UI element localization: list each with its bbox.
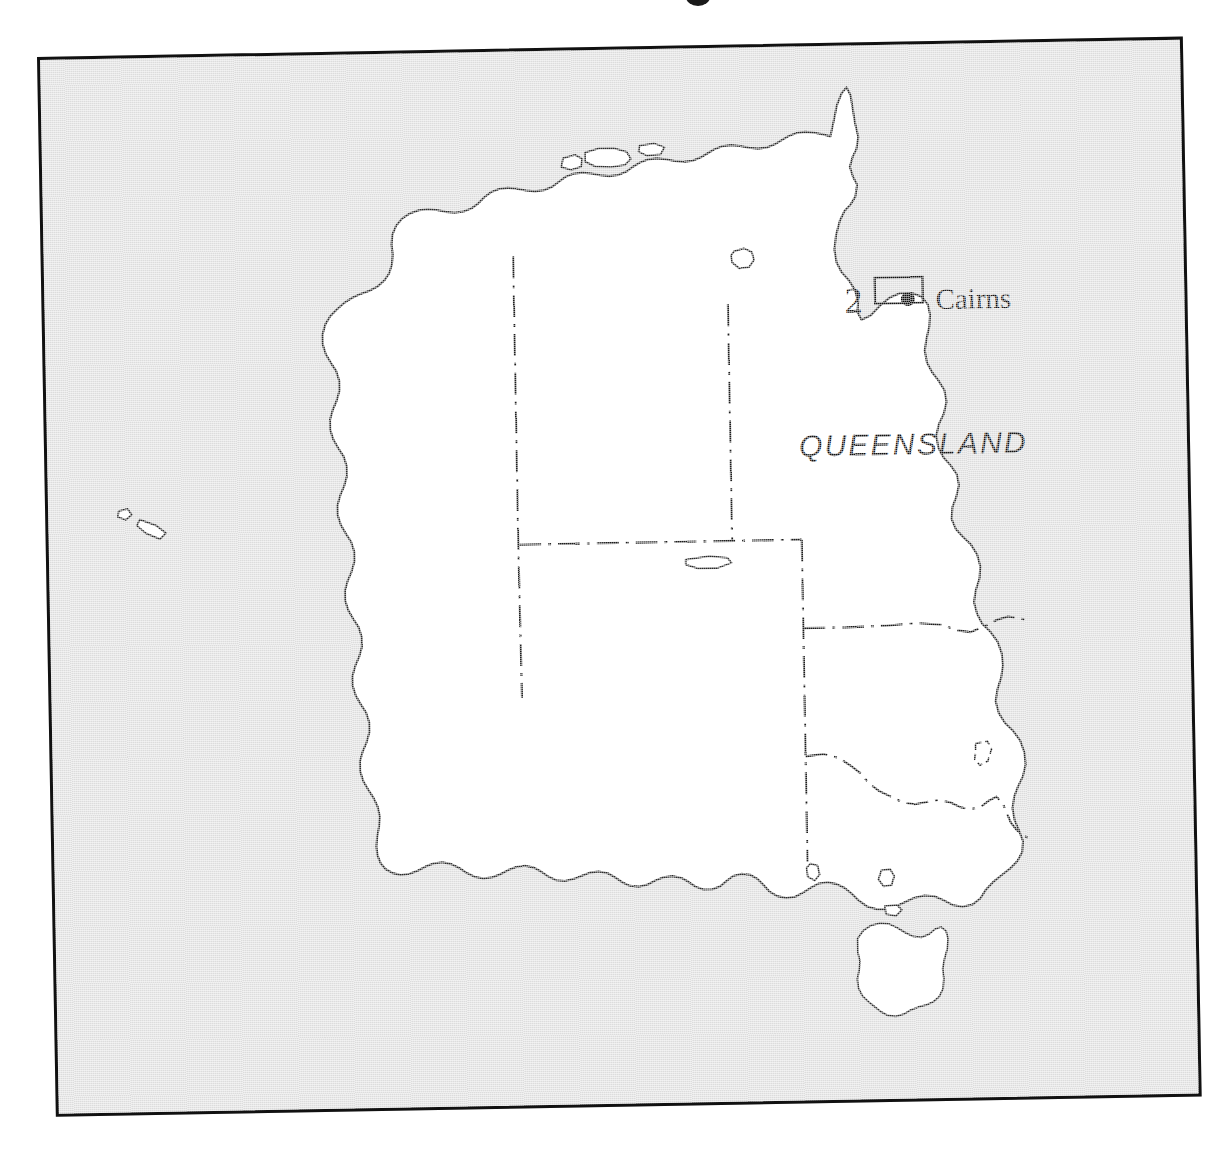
tiwi-island-east [638, 143, 664, 155]
bernier-island [118, 509, 132, 520]
king-island [807, 864, 820, 881]
queensland-label: QUEENSLAND [799, 425, 1028, 463]
cropped-title-mark [686, 0, 710, 6]
map-frame-wrapper: 2 Cairns QUEENSLAND [37, 37, 1202, 1117]
australia-map-svg [40, 40, 1199, 1114]
map-frame: 2 Cairns QUEENSLAND [37, 37, 1202, 1117]
mainland-australia [318, 84, 1028, 919]
groote-eylandt [731, 248, 754, 268]
bathurst-island [561, 155, 582, 170]
cape-barren-island [885, 905, 902, 916]
melville-island [585, 148, 631, 168]
map-page: 2 Cairns QUEENSLAND [0, 0, 1229, 1169]
flinders-island [878, 869, 894, 886]
tasmania [856, 922, 949, 1017]
cairns-label: Cairns [935, 282, 1011, 316]
inset-number-label: 2 [844, 279, 863, 321]
dirk-hartog-island [137, 519, 166, 539]
